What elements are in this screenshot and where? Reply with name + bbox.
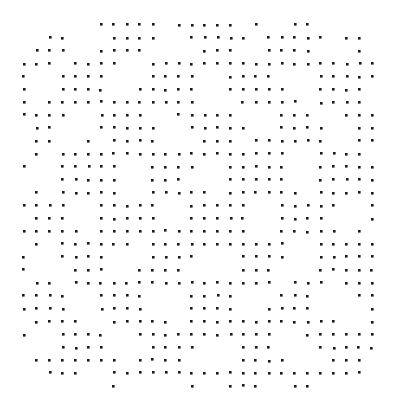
moire-dot-pattern-figure: Moire Dot Lattice Square lattice of smal…: [0, 0, 401, 410]
dot-lattice-canvas: [0, 0, 401, 410]
